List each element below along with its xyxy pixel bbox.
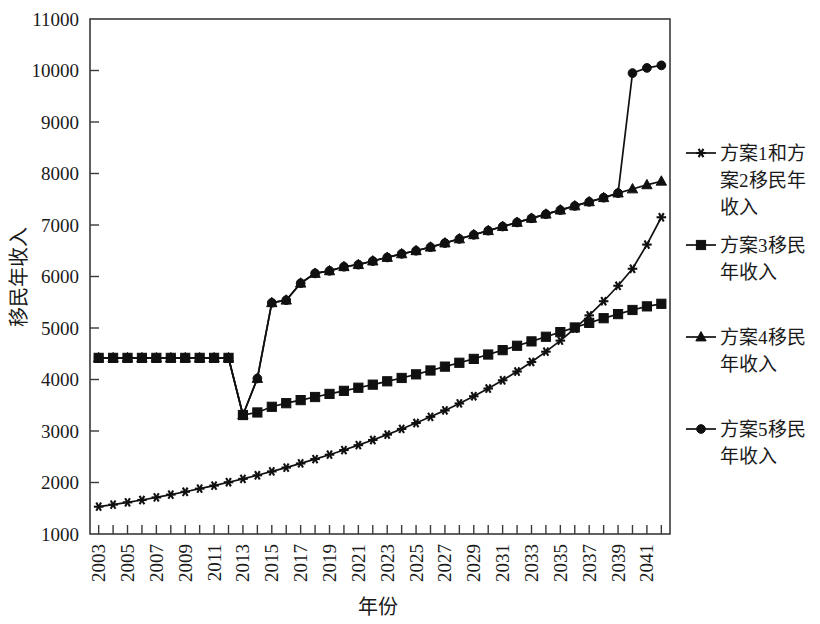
data-point-asterisk	[397, 425, 407, 433]
data-point-square	[512, 341, 521, 350]
data-point-asterisk	[180, 488, 190, 496]
data-point-asterisk	[483, 384, 493, 392]
data-point-square	[628, 305, 637, 314]
data-point-square	[253, 408, 262, 417]
legend-label: 案2移民年	[720, 170, 806, 191]
data-point-square	[498, 346, 507, 355]
data-point-asterisk	[382, 430, 392, 438]
data-point-circle	[455, 235, 464, 244]
data-point-circle	[441, 239, 450, 248]
data-point-asterisk	[339, 446, 349, 454]
data-point-asterisk	[455, 399, 465, 407]
data-point-asterisk	[296, 459, 306, 467]
x-tick-label: 2019	[319, 544, 340, 582]
data-point-circle	[166, 354, 175, 363]
data-point-square	[440, 362, 449, 371]
data-point-circle	[253, 374, 262, 383]
data-point-asterisk	[253, 471, 263, 479]
data-point-square	[599, 314, 608, 323]
x-tick-label: 2021	[348, 544, 369, 582]
data-point-circle	[599, 193, 608, 202]
data-point-circle	[570, 202, 579, 211]
data-point-asterisk	[411, 419, 421, 427]
x-tick-label: 2039	[608, 544, 629, 582]
data-point-asterisk	[325, 451, 335, 459]
data-point-square	[657, 299, 666, 308]
data-point-circle	[657, 61, 666, 70]
data-point-square	[455, 358, 464, 367]
data-point-square	[325, 389, 334, 398]
data-point-square	[397, 373, 406, 382]
y-tick-label: 5000	[41, 318, 79, 339]
data-point-square	[484, 350, 493, 359]
data-point-asterisk	[94, 503, 104, 511]
x-tick-label: 2023	[377, 544, 398, 582]
data-point-asterisk	[152, 493, 162, 501]
data-point-circle	[138, 354, 147, 363]
legend-label: 年收入	[720, 354, 777, 375]
data-point-asterisk	[238, 475, 248, 483]
data-point-asterisk	[267, 467, 277, 475]
data-point-square	[267, 402, 276, 411]
data-point-asterisk	[209, 481, 219, 489]
x-tick-label: 2011	[204, 544, 225, 581]
x-tick-label: 2013	[232, 544, 253, 582]
legend-label: 收入	[720, 197, 758, 218]
y-tick-label: 3000	[41, 421, 79, 442]
line-chart-svg: 1000200030004000500060007000800090001000…	[0, 0, 820, 624]
legend-label: 方案5移民	[720, 419, 806, 440]
data-point-square	[613, 309, 622, 318]
x-tick-label: 2003	[88, 544, 109, 582]
data-point-asterisk	[642, 240, 652, 248]
data-point-asterisk	[108, 501, 118, 509]
data-point-asterisk	[469, 392, 479, 400]
data-point-square	[556, 328, 565, 337]
y-tick-label: 11000	[32, 9, 79, 30]
data-point-circle	[513, 218, 522, 227]
data-point-square	[296, 396, 305, 405]
x-tick-label: 2031	[492, 544, 513, 582]
data-point-circle	[109, 354, 118, 363]
data-point-circle	[484, 226, 493, 235]
data-point-asterisk	[166, 490, 176, 498]
data-point-circle	[152, 354, 161, 363]
x-tick-label: 2033	[521, 544, 542, 582]
data-point-circle	[585, 197, 594, 206]
data-point-asterisk	[440, 406, 450, 414]
data-point-circle	[542, 210, 551, 219]
data-point-circle	[210, 354, 219, 363]
data-point-square	[354, 383, 363, 392]
data-point-asterisk	[354, 441, 364, 449]
data-point-circle	[311, 269, 320, 278]
data-point-square	[426, 366, 435, 375]
x-tick-label: 2015	[261, 544, 282, 582]
legend-label: 年收入	[720, 262, 777, 283]
plot-frame	[90, 19, 670, 534]
x-tick-label: 2025	[406, 544, 427, 582]
data-point-circle	[282, 296, 291, 305]
y-tick-label: 1000	[41, 524, 79, 545]
data-point-circle	[397, 249, 406, 258]
data-point-circle	[383, 253, 392, 262]
data-point-circle	[412, 246, 421, 255]
data-point-square	[310, 392, 319, 401]
y-tick-label: 10000	[32, 60, 80, 81]
x-tick-label: 2007	[146, 544, 167, 582]
legend-label: 年收入	[720, 446, 777, 467]
data-point-square	[642, 302, 651, 311]
data-point-circle	[527, 214, 536, 223]
data-point-asterisk	[123, 498, 133, 506]
data-point-circle	[643, 64, 652, 73]
data-point-square	[541, 332, 550, 341]
data-point-circle	[340, 262, 349, 271]
data-point-circle	[556, 206, 565, 215]
data-point-circle	[368, 257, 377, 266]
data-point-asterisk	[696, 149, 706, 157]
x-tick-label: 2041	[636, 544, 657, 582]
data-point-asterisk	[368, 436, 378, 444]
data-point-asterisk	[426, 413, 436, 421]
data-point-circle	[325, 266, 334, 275]
data-point-circle	[498, 222, 507, 231]
y-tick-label: 4000	[41, 369, 79, 390]
x-tick-label: 2027	[434, 544, 455, 582]
